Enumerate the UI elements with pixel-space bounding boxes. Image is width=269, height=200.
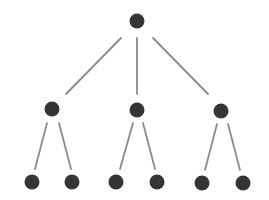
edge-n1-n1a: [35, 123, 47, 169]
edge-n1-n1b: [59, 123, 71, 169]
tree-node-root: [130, 14, 145, 29]
edge-n3-n3a: [205, 124, 217, 170]
edge-n3-n3b: [228, 124, 240, 170]
tree-diagram: [0, 0, 269, 200]
edge-root-n1: [66, 38, 121, 94]
tree-node-n3b: [236, 176, 251, 191]
edge-n2-n2b: [143, 123, 155, 169]
edge-root-n3: [153, 38, 208, 94]
tree-node-n3: [214, 104, 229, 119]
edge-n2-n2a: [120, 123, 133, 169]
tree-node-n2: [130, 103, 145, 118]
tree-node-n1b: [65, 175, 80, 190]
tree-node-n2b: [150, 175, 165, 190]
tree-node-n1a: [25, 175, 40, 190]
tree-node-n2a: [109, 175, 124, 190]
tree-node-n1: [45, 102, 60, 117]
tree-node-n3a: [195, 176, 210, 191]
